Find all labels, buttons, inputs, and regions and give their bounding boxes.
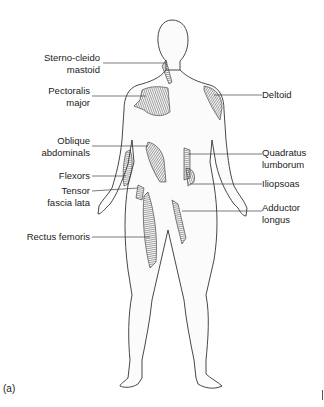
- label-iliopsoas: Iliopsoas: [262, 178, 322, 190]
- label-rectus-femoris: Rectus femoris: [0, 231, 90, 243]
- label-oblique-abdominals: Oblique abdominals: [10, 135, 90, 159]
- torso: [98, 70, 247, 388]
- body-outline: [98, 20, 247, 388]
- label-adductor-longus: Adductor longus: [262, 202, 322, 226]
- label-tensor-fascia-lata: Tensor fascia lata: [10, 185, 90, 209]
- panel-label: (a): [3, 383, 15, 394]
- label-deltoid: Deltoid: [262, 89, 322, 101]
- label-pectoralis-major: Pectoralis major: [10, 85, 90, 109]
- head: [158, 20, 188, 72]
- label-quadratus-lumborum: Quadratus lumborum: [262, 147, 324, 171]
- label-sternocleidomastoid: Sterno-cleido mastoid: [20, 52, 100, 76]
- edge-mark: [322, 390, 323, 400]
- label-flexors: Flexors: [10, 170, 90, 182]
